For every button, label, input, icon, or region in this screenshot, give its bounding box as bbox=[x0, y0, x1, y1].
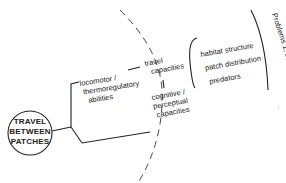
travel-capacities-label: travel capacities bbox=[144, 52, 185, 76]
problems-label: Problems 1, 2, 3 bbox=[270, 12, 286, 67]
svg-text:Problems 1, 2, 3: Problems 1, 2, 3 bbox=[270, 12, 286, 67]
connector-circle-to-fork bbox=[52, 127, 71, 131]
locomotor-to-travel-line bbox=[128, 67, 140, 70]
fork-upper-branch bbox=[71, 82, 79, 127]
factor-predators: predators bbox=[209, 71, 242, 85]
factors-right-bracket bbox=[251, 10, 268, 90]
diagram-canvas: TRAVEL BETWEEN PATCHES locomotor / therm… bbox=[0, 0, 286, 183]
cognitive-label: cognitive / perceptual capacities bbox=[151, 87, 191, 120]
faint-mark bbox=[278, 106, 279, 109]
factors-list: habitat structure patch distribution pre… bbox=[200, 40, 264, 87]
locomotor-label: locomotor / thermoregulatory abilities bbox=[79, 70, 141, 106]
central-node-line-3: PATCHES bbox=[11, 137, 50, 146]
factors-left-bracket bbox=[190, 38, 197, 88]
travel-to-cognitive-link bbox=[163, 80, 164, 88]
central-node-line-2: BETWEEN bbox=[9, 127, 50, 136]
fork-lower-branch bbox=[71, 127, 150, 143]
central-node-line-1: TRAVEL bbox=[14, 117, 47, 126]
